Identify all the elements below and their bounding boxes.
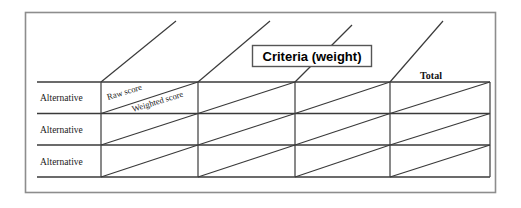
decision-matrix-figure: Criteria (weight) Total (0, 0, 521, 208)
row-label-alternative-1: Alternative (40, 93, 83, 103)
row-label-alternative-3: Alternative (40, 157, 83, 167)
total-column-header: Total (420, 70, 442, 81)
decision-matrix-canvas: Criteria (weight) Total (0, 0, 521, 208)
criteria-callout: Criteria (weight) (253, 46, 372, 67)
row-label-alternative-2: Alternative (40, 125, 83, 135)
criteria-callout-label: Criteria (weight) (263, 49, 362, 64)
